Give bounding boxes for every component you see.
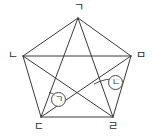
vertex-label-left: ㄴ [8, 50, 18, 61]
diagram-canvas [0, 0, 153, 138]
segment-left-bottom_right [23, 56, 113, 117]
angle-mark-angle-b: ㄴ [108, 75, 123, 90]
segment-top-right [78, 18, 131, 56]
vertex-label-right: ㅁ [136, 50, 146, 61]
vertex-label-top: ㄱ [74, 2, 84, 13]
vertex-label-bottom_left: ㄷ [34, 121, 44, 132]
vertex-label-bottom_right: ㄹ [108, 121, 118, 132]
segment-top-left [23, 18, 78, 56]
pentagon-diagram: ㄱㄴㅁㄷㄹ ㄱㄴ [0, 0, 153, 138]
segment-left-bottom_left [23, 56, 41, 117]
edge-layer [23, 18, 131, 117]
segment-top-bottom_right [78, 18, 113, 117]
angle-mark-angle-a: ㄱ [51, 92, 66, 107]
